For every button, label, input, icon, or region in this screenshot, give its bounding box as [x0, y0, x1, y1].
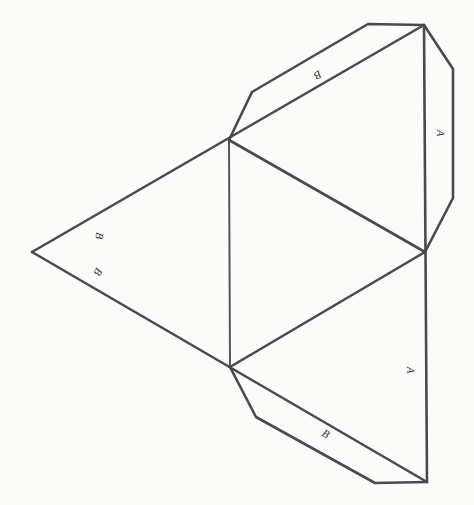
label-left-lower: B	[91, 266, 105, 278]
fold-lower	[230, 252, 425, 367]
tab-right-outline	[424, 25, 453, 252]
tetrahedron-net-diagram: B A B B B A	[0, 0, 474, 505]
tab-lower-label: B	[320, 427, 332, 441]
tab-upper-label: B	[312, 69, 324, 83]
label-left-upper: B	[93, 231, 106, 240]
fold-upper	[229, 140, 425, 252]
tab-right-label: A	[435, 129, 447, 137]
fold-vertical	[229, 140, 230, 367]
label-lower-right-face-text: A	[405, 366, 417, 374]
